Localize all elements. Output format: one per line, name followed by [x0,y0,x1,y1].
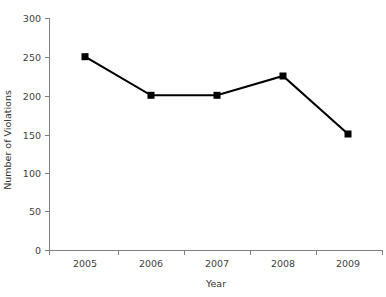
data-point-2008 [280,73,287,80]
y-tick-label-250: 250 [23,52,41,63]
y-tick-label-100: 100 [23,168,41,179]
x-tick-label-2005: 2005 [73,258,97,269]
y-tick-label-200: 200 [23,91,41,102]
chart-plot-area: 0 50 100 150 200 250 300 Number of Viola… [0,0,386,297]
data-point-2006 [148,92,155,99]
y-tick-label-150: 150 [23,130,41,141]
line-chart: 0 50 100 150 200 250 300 Number of Viola… [0,0,386,297]
x-tick-label-2008: 2008 [271,258,295,269]
y-tick-label-0: 0 [35,245,41,256]
y-axis-title: Number of Violations [2,90,13,190]
y-tick-label-50: 50 [29,206,41,217]
x-tick-label-2009: 2009 [336,258,360,269]
data-point-2009 [345,131,352,138]
x-tick-label-2007: 2007 [205,258,229,269]
y-tick-label-300: 300 [23,13,41,24]
data-point-2005 [82,53,89,60]
chart-background [0,0,386,297]
x-axis-title: Year [205,278,226,289]
x-tick-label-2006: 2006 [139,258,163,269]
data-point-2007 [214,92,221,99]
